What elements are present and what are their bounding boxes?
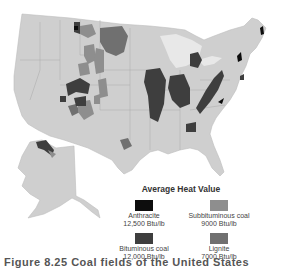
subbituminous-swatch <box>210 200 228 211</box>
subbituminous-value: 9000 Btu/lb <box>174 220 264 228</box>
lignite-name: Lignite <box>174 245 264 253</box>
subbituminous-name: Subbituminous coal <box>174 212 264 220</box>
alaska-land <box>18 140 100 218</box>
bituminous-swatch <box>135 233 153 244</box>
figure-caption: Figure 8.25 Coal fields of the United St… <box>4 256 249 268</box>
anthracite-swatch <box>135 200 153 211</box>
lignite-swatch <box>210 233 228 244</box>
legend-title: Average Heat Value <box>116 184 246 194</box>
subbituminous-label: Subbituminous coal 9000 Btu/lb <box>174 212 264 228</box>
